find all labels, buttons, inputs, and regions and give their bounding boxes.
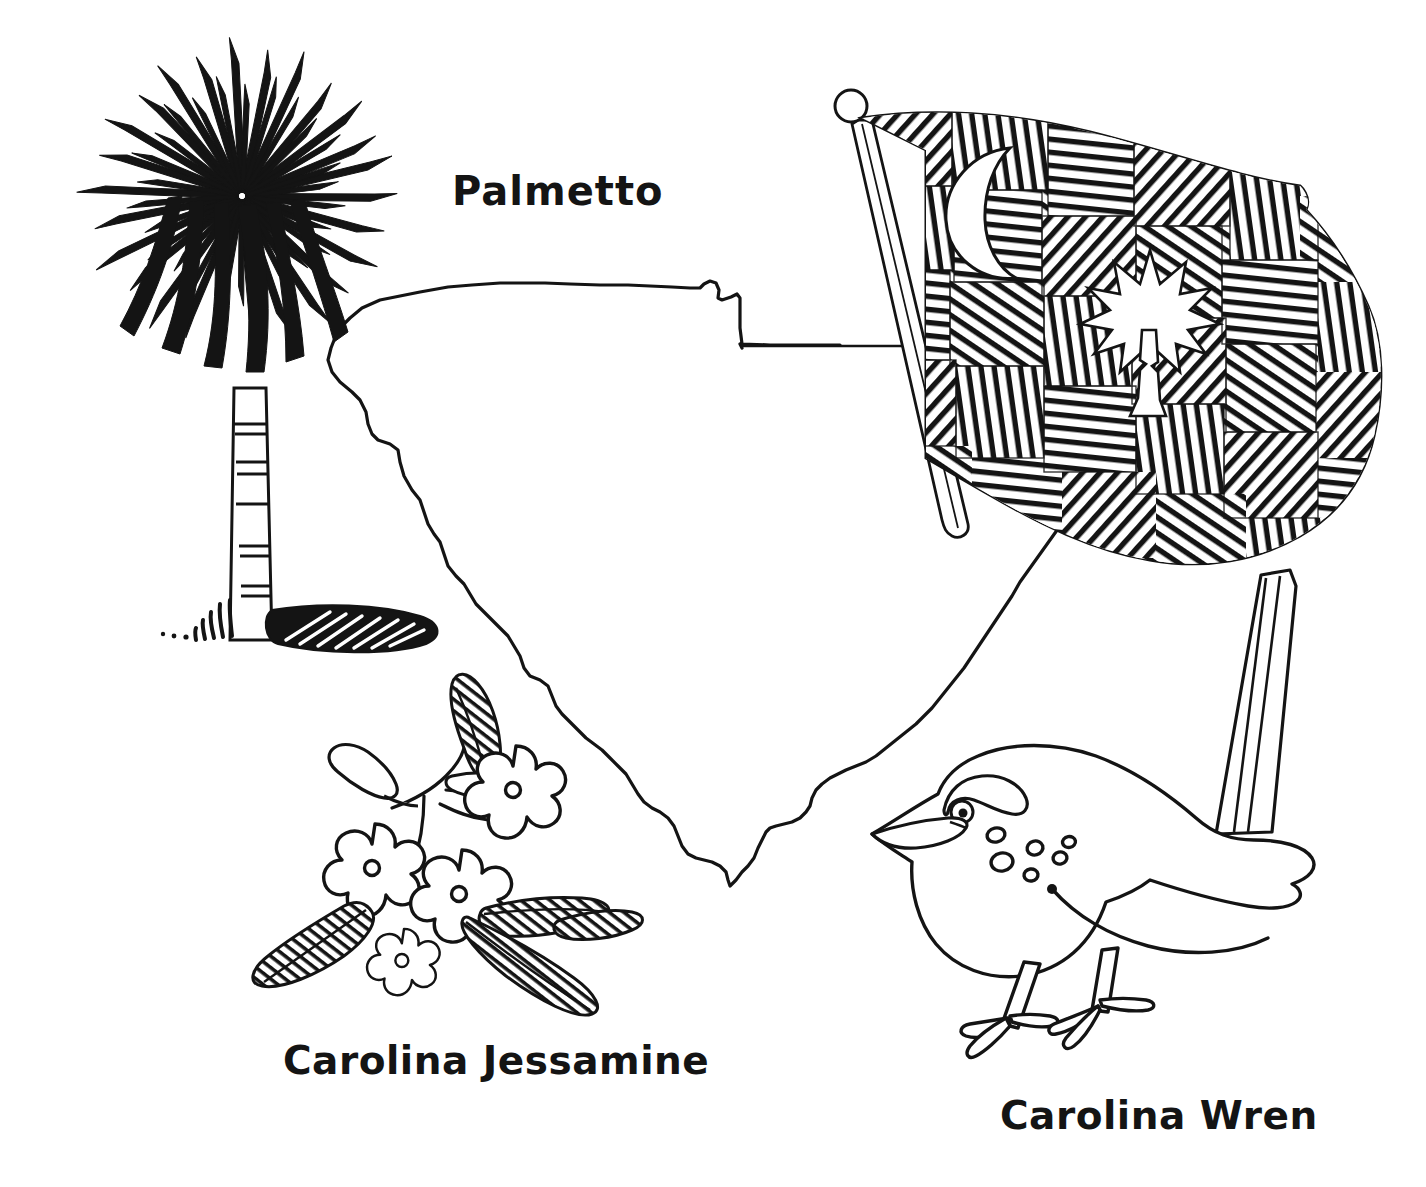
wren-feet [961,999,1154,1058]
palmetto-frond-crown [77,37,398,372]
illustration-canvas [0,0,1426,1187]
palmetto-tree-illustration [77,37,438,652]
jessamine-flower [367,929,440,995]
state-flag-illustration [835,90,1408,602]
flag-field [840,90,1408,602]
coloring-page-sheet: Palmetto Carolina Jessamine Carolina Wre… [0,0,1426,1187]
jessamine-leaf-left [253,903,374,987]
label-carolina-wren: Carolina Wren [1000,1093,1318,1138]
palmetto-trunk [230,388,272,640]
wren-tail [1216,570,1296,834]
jessamine-flower [465,746,566,838]
palmetto-ground-shadow [266,605,438,652]
jessamine-bud [329,745,418,806]
label-carolina-jessamine: Carolina Jessamine [283,1038,709,1083]
palmetto-grass-tufts [161,600,232,640]
carolina-wren-illustration [872,570,1314,1057]
carolina-jessamine-illustration [253,674,643,1015]
label-palmetto: Palmetto [452,168,663,214]
